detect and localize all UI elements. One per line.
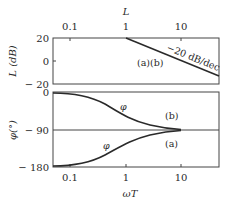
curve-a-label: (a): [165, 138, 178, 149]
mag-curve-label: (a)(b): [137, 57, 164, 68]
top-tick-1: 1: [123, 21, 129, 32]
bottom-tick-0.1: 0.1: [62, 172, 78, 183]
top-axis-title: L: [122, 6, 130, 17]
bottom-tick-10: 10: [175, 172, 188, 183]
x-axis-title: ωT: [123, 188, 139, 199]
phase-ytick-neg90: − 90: [25, 125, 49, 136]
phase-ylabel: φ(°): [7, 120, 18, 140]
mag-ylabel: L (dB): [7, 45, 18, 77]
phase-ytick-0: 0: [43, 87, 49, 98]
phase-curve-a: [53, 131, 181, 167]
top-tick-10: 10: [175, 21, 188, 32]
magnitude-panel: 20 0 − 20 L (dB) −20 dB/dec (a)(b): [7, 33, 222, 90]
phase-ytick-neg180: − 180: [18, 162, 49, 173]
phi-a-label: φ: [103, 140, 110, 151]
phase-curve-b: [53, 93, 181, 130]
curve-b-label: (b): [165, 110, 179, 121]
phase-panel: 0 − 90 − 180 φ(°) φ (b) φ (a): [7, 87, 219, 173]
bode-figure: L 0.1 1 10 20 0 − 20 L (dB) −20 dB/dec (…: [0, 0, 228, 204]
bottom-tick-1: 1: [123, 172, 129, 183]
phi-b-label: φ: [120, 101, 127, 112]
mag-ytick-0: 0: [43, 56, 49, 67]
top-tick-0.1: 0.1: [62, 21, 78, 32]
mag-ytick-20: 20: [36, 33, 49, 44]
